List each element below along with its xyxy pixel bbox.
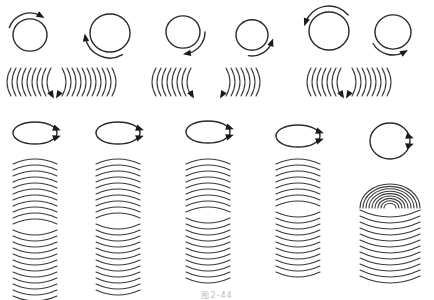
figure-caption: 图2-44 (0, 289, 434, 300)
arc-stroke (96, 260, 140, 265)
spiral-arc (375, 196, 405, 208)
arc-stroke (96, 278, 140, 283)
arc-stroke (276, 195, 320, 200)
arc-stroke (317, 68, 321, 96)
arc-stroke (186, 278, 230, 283)
arc-stroke (377, 68, 381, 96)
arc-stroke (360, 210, 420, 217)
arc-stroke (96, 159, 140, 164)
arc-stroke (96, 224, 140, 229)
arc-stroke (186, 201, 230, 206)
arc-stroke (186, 171, 230, 176)
arc-stroke (276, 242, 320, 247)
arc-stroke (186, 242, 230, 247)
arc-stroke (182, 68, 186, 96)
arc-stroke (276, 218, 320, 223)
arc-stroke (62, 68, 66, 96)
arc-stroke (186, 165, 230, 170)
arc-stroke (13, 201, 57, 206)
arrowhead-icon (52, 135, 61, 141)
arc-stroke (13, 230, 57, 235)
arc-stroke (226, 68, 230, 96)
arc-stroke (177, 68, 181, 96)
arc-stroke (92, 68, 96, 96)
arc-stroke (362, 68, 366, 96)
arc-stroke (13, 278, 57, 283)
arc-stroke (96, 171, 140, 176)
arc-stroke (186, 248, 230, 253)
arc-stroke (96, 254, 140, 259)
arc-stroke (13, 242, 57, 247)
arrowhead-icon (225, 124, 234, 130)
arc-stroke (13, 266, 57, 271)
arc-stroke (13, 260, 57, 265)
arc-stroke (87, 68, 91, 96)
arc-stroke (276, 248, 320, 253)
arc-stroke (186, 272, 230, 277)
arc-stroke (13, 207, 57, 212)
arrowhead-icon (36, 11, 45, 18)
arc-stroke (13, 171, 57, 176)
arc-stroke (186, 230, 230, 235)
arc-stroke (251, 68, 255, 96)
arc-stroke (102, 68, 106, 96)
ellipse-stroke (370, 123, 410, 159)
arc-stroke (13, 189, 57, 194)
arc-stroke (97, 68, 101, 96)
arc-stroke (357, 68, 361, 96)
arc-stroke (186, 177, 230, 182)
circle-stroke (166, 16, 200, 48)
arc-stroke (186, 254, 230, 259)
arc-stroke (96, 236, 140, 241)
arc-stroke (13, 213, 57, 218)
arc-stroke (42, 68, 46, 96)
arc-stroke (82, 68, 86, 96)
arc-stroke (96, 183, 140, 188)
arrowhead-icon (56, 90, 63, 99)
arc-stroke (96, 195, 140, 200)
arrowhead-icon (267, 38, 273, 47)
arc-stroke (96, 207, 140, 212)
arc-stroke (312, 68, 316, 96)
arc-stroke (276, 236, 320, 241)
arc-stroke (352, 68, 356, 96)
arc-stroke (96, 177, 140, 182)
arc-stroke (276, 260, 320, 265)
arc-stroke (241, 68, 245, 96)
ellipse-stroke (13, 122, 57, 144)
arc-stroke (13, 254, 57, 259)
arc-stroke (276, 224, 320, 229)
arc-stroke (276, 266, 320, 271)
arc-stroke (77, 68, 81, 96)
arrowhead-icon (405, 143, 414, 149)
circle-stroke (13, 19, 47, 51)
arrowhead-icon (183, 50, 191, 56)
arc-stroke (186, 260, 230, 265)
arc-stroke (96, 230, 140, 235)
arc-stroke (96, 248, 140, 253)
arrowhead-icon (135, 125, 144, 131)
circle-stroke (375, 15, 411, 49)
arc-stroke (96, 272, 140, 277)
arc-stroke (236, 68, 240, 96)
stroke-exercise-figure (0, 0, 434, 300)
arc-stroke (13, 248, 57, 253)
ellipse-stroke (186, 121, 230, 143)
circle-stroke (236, 20, 268, 50)
arc-stroke (387, 68, 391, 96)
arc-stroke (276, 230, 320, 235)
arc-stroke (13, 165, 57, 170)
arc-stroke (96, 266, 140, 271)
arc-stroke (276, 159, 320, 164)
arc-stroke (22, 68, 26, 96)
arc-stroke (37, 68, 41, 96)
arrowhead-icon (399, 50, 408, 57)
spiral-arc (384, 203, 396, 208)
arrowhead-icon (405, 133, 414, 139)
arrowhead-icon (220, 90, 227, 99)
arc-stroke (276, 201, 320, 206)
arrowhead-icon (83, 33, 89, 41)
arc-stroke (246, 68, 250, 96)
arc-stroke (13, 195, 57, 200)
arc-stroke (186, 266, 230, 271)
